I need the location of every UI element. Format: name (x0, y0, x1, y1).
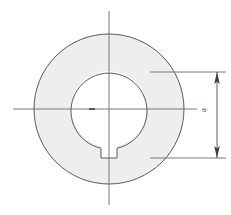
technical-drawing-canvas: a (0, 0, 231, 215)
dimension-a-label: a (197, 103, 209, 117)
